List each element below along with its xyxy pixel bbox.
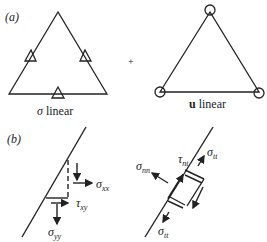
sigma-linear-caption: σ linear [37, 104, 73, 119]
sigma-xx-label: σxx [96, 177, 109, 193]
midside-marker-bottom [52, 87, 64, 98]
sigma-linear-triangle [9, 12, 107, 98]
u-linear-caption: u linear [189, 97, 226, 112]
part-a-label: (a) [5, 10, 19, 25]
figure-canvas [0, 0, 267, 242]
sigma-yy-label: σyy [48, 225, 61, 241]
vertex-marker-top [205, 5, 215, 15]
sigma-tt-bottom-label: σtt [158, 224, 168, 240]
tau-xy-label: τxy [76, 196, 87, 212]
sigma-nn-label: σnn [136, 159, 150, 175]
vertex-marker-right [254, 88, 264, 98]
sigma-tt-top-label: σtt [207, 145, 217, 161]
boundary-left [22, 127, 92, 237]
tau-nt-label: τnt [178, 152, 189, 168]
plus-operator: + [128, 56, 134, 67]
part-b-label: (b) [7, 132, 21, 147]
u-linear-triangle [155, 5, 264, 98]
boundary-right [145, 127, 213, 237]
